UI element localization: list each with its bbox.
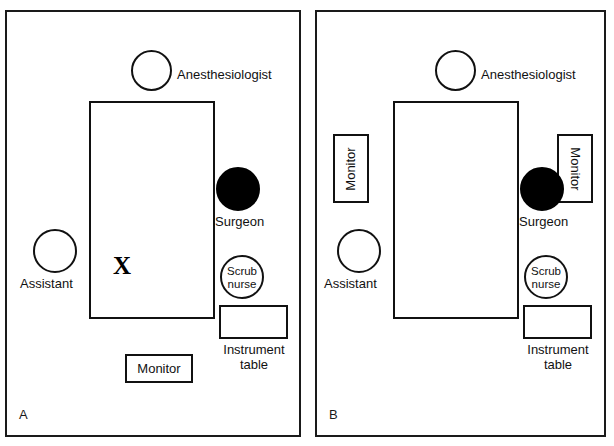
person-scrub-nurse-b: Scrub nurse: [524, 255, 568, 299]
label-monitor-a: Monitor: [137, 362, 180, 376]
label-instrument-table-b: Instrument table: [518, 343, 598, 372]
person-scrub-nurse-a: Scrub nurse: [220, 255, 264, 299]
label-anesthesiologist-b: Anesthesiologist: [481, 68, 576, 83]
operating-table-b: [393, 101, 519, 319]
label-scrub-nurse-a: Scrub nurse: [222, 265, 262, 290]
person-anesthesiologist-b: [435, 50, 476, 91]
monitor-a: Monitor: [125, 354, 193, 383]
label-surgeon-b: Surgeon: [519, 215, 568, 230]
monitor-left-b: Monitor: [333, 134, 369, 203]
operating-table-a: X: [89, 101, 215, 319]
label-instrument-table-a: Instrument table: [214, 343, 294, 372]
instrument-table-b: [523, 305, 592, 339]
person-anesthesiologist-a: [131, 50, 172, 91]
label-surgeon-a: Surgeon: [215, 215, 264, 230]
label-monitor-right-b: Monitor: [568, 147, 582, 190]
person-surgeon-b: [520, 167, 564, 211]
panel-letter-a: A: [19, 408, 28, 421]
instrument-table-a: [219, 305, 288, 339]
operating-room-layout-figure: X Anesthesiologist Surgeon Assistant Scr…: [0, 0, 614, 446]
panel-b: Anesthesiologist Monitor Monitor Surgeon…: [315, 10, 606, 437]
panel-a: X Anesthesiologist Surgeon Assistant Scr…: [5, 10, 301, 437]
person-assistant-a: [33, 229, 77, 273]
label-assistant-b: Assistant: [324, 277, 377, 292]
person-assistant-b: [337, 229, 381, 273]
person-surgeon-a: [216, 167, 260, 211]
panel-letter-b: B: [329, 408, 338, 421]
surgical-site-x-marker: X: [113, 253, 131, 278]
label-monitor-left-b: Monitor: [344, 147, 358, 190]
label-anesthesiologist-a: Anesthesiologist: [177, 68, 272, 83]
label-assistant-a: Assistant: [20, 277, 73, 292]
label-scrub-nurse-b: Scrub nurse: [526, 265, 566, 290]
